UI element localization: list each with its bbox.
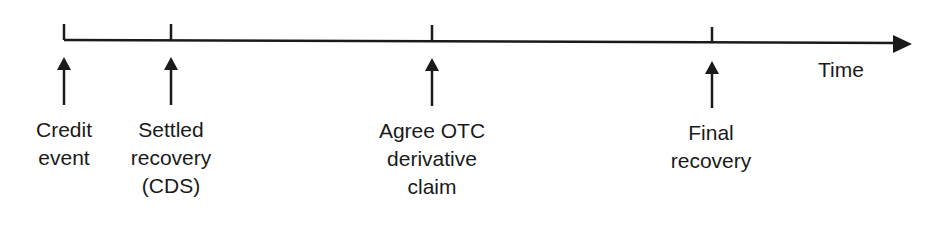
- label-line: (CDS): [131, 172, 212, 200]
- label-line: recovery: [131, 144, 212, 172]
- arrow-up-icon: [705, 61, 719, 108]
- label-line: recovery: [671, 147, 752, 175]
- arrow-up-icon: [164, 57, 178, 105]
- label-line: Agree OTC: [379, 117, 485, 145]
- arrow-up-icon: [425, 58, 439, 106]
- label-line: event: [36, 144, 92, 172]
- time-axis-line: [64, 40, 898, 43]
- event-label-credit-event: Credit event: [36, 116, 92, 172]
- event-label-agree-otc-claim: Agree OTC derivative claim: [379, 117, 485, 201]
- axis-arrowhead-icon: [893, 35, 912, 53]
- label-line: derivative: [379, 145, 485, 173]
- axis-label-time: Time: [818, 58, 864, 82]
- event-label-final-recovery: Final recovery: [671, 119, 752, 175]
- arrow-up-icon: [57, 57, 71, 105]
- label-line: claim: [379, 173, 485, 201]
- label-line: Credit: [36, 116, 92, 144]
- event-label-settled-recovery: Settled recovery (CDS): [131, 116, 212, 200]
- label-line: Settled: [131, 116, 212, 144]
- label-line: Final: [671, 119, 752, 147]
